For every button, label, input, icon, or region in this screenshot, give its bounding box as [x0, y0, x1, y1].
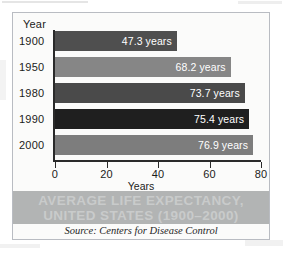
- y-tick-label-1990: 1990: [19, 113, 53, 125]
- y-tick-label-1950: 1950: [19, 61, 53, 73]
- bar-1980[interactable]: 73.7 years: [55, 83, 245, 103]
- bar-value-label: 73.7 years: [190, 87, 245, 99]
- y-tick-label-2000: 2000: [19, 139, 53, 151]
- bar-row: 47.3 years: [55, 31, 261, 51]
- scan-artifact-bottom-right: [245, 240, 283, 246]
- bar-row: 75.4 years: [55, 109, 261, 129]
- bar-value-label: 68.2 years: [176, 61, 231, 73]
- chart-source: Source: Centers for Disease Control: [13, 225, 269, 236]
- bar-value-label: 75.4 years: [194, 113, 249, 125]
- x-tick-label-20: 20: [100, 168, 113, 180]
- bars-container: 47.3 years68.2 years73.7 years75.4 years…: [55, 31, 261, 160]
- bar-1950[interactable]: 68.2 years: [55, 57, 231, 77]
- x-axis-line: [53, 160, 261, 162]
- y-tick-label-1980: 1980: [19, 87, 53, 99]
- bar-row: 76.9 years: [55, 135, 261, 155]
- scan-artifact-top-right: [238, 1, 282, 4]
- x-tick-label-80: 80: [255, 168, 268, 180]
- y-axis-title: Year: [23, 18, 46, 30]
- scan-artifact-left: [0, 60, 6, 100]
- bar-1990[interactable]: 75.4 years: [55, 109, 249, 129]
- scan-artifact-top-left: [2, 1, 88, 3]
- chart-title-line-2: UNITED STATES (1900–2000): [43, 208, 239, 223]
- chart-title-line-1: AVERAGE LIFE EXPECTANCY,: [38, 193, 244, 208]
- bar-value-label: 76.9 years: [198, 139, 253, 151]
- chart-title-banner: AVERAGE LIFE EXPECTANCY, UNITED STATES (…: [13, 191, 269, 224]
- plot-area: Year 19001950198019902000 47.3 years68.2…: [13, 13, 269, 189]
- bar-value-label: 47.3 years: [122, 35, 177, 47]
- bar-2000[interactable]: 76.9 years: [55, 135, 253, 155]
- x-tick-label-40: 40: [152, 168, 165, 180]
- scan-artifact-bottom-left: [0, 244, 40, 248]
- x-tick-label-0: 0: [52, 168, 58, 180]
- bar-row: 73.7 years: [55, 83, 261, 103]
- chart-figure: Year 19001950198019902000 47.3 years68.2…: [12, 12, 270, 240]
- x-tick-label-60: 60: [203, 168, 216, 180]
- y-tick-label-1900: 1900: [19, 35, 53, 47]
- bar-1900[interactable]: 47.3 years: [55, 31, 177, 51]
- bar-row: 68.2 years: [55, 57, 261, 77]
